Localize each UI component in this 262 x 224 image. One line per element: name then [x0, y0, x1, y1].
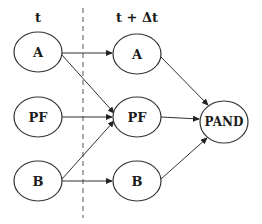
node-pand-label: PAND — [205, 115, 244, 129]
node-a-t-plus-delta-label: A — [131, 47, 143, 62]
node-pf-t-plus-delta: PF — [113, 97, 161, 137]
node-b-t-label: B — [33, 174, 44, 189]
node-pf-t-label: PF — [28, 110, 48, 125]
node-a-t-label: A — [32, 45, 44, 60]
node-a-t-plus-delta: A — [113, 34, 161, 74]
node-pf-t-plus-delta-label: PF — [127, 110, 147, 125]
node-pf-t: PF — [14, 97, 62, 137]
node-b-t-plus-delta: B — [113, 161, 161, 201]
edge-a-to-pand — [161, 57, 208, 105]
edge-a-to-pf — [62, 55, 114, 113]
edge-b-to-pf — [62, 121, 114, 179]
time-t-plus-delta-header: t + Δt — [116, 10, 158, 25]
edge-pf-to-pand — [161, 117, 199, 119]
edge-b-to-pand — [161, 138, 207, 179]
node-pand: PAND — [200, 101, 248, 143]
pand-dynamic-fault-tree-diagram: t t + Δt A PF B A PF B PAND — [0, 0, 262, 224]
time-t-header: t — [35, 10, 41, 25]
node-a-t: A — [14, 32, 62, 72]
node-b-t-plus-delta-label: B — [132, 174, 143, 189]
node-b-t: B — [14, 161, 62, 201]
